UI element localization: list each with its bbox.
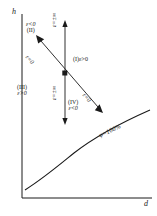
saturation-curve <box>25 110 150 190</box>
quadrant-iv-epsilon: ε<0 <box>68 105 78 111</box>
diagonal-line-arrow-upleft <box>36 35 44 44</box>
vertical-line-arrow-up <box>62 20 67 27</box>
quadrant-ii-roman: (II) <box>26 27 35 33</box>
quadrant-i-label: (I)ε>0 <box>73 56 88 62</box>
vertical-epsilon-label-upper: ε=±∞ <box>51 13 57 27</box>
quadrant-iii-label: (III) ε>0 <box>17 84 27 97</box>
diagram-canvas <box>0 0 157 216</box>
vertical-epsilon-label-lower: ε=±∞ <box>51 86 57 100</box>
quadrant-ii-label: ε<0 (II) <box>26 21 35 34</box>
diagonal-line-arrow-downright <box>95 104 103 113</box>
quadrant-iii-epsilon: ε>0 <box>17 90 27 96</box>
vertical-line-arrow-down <box>62 118 67 125</box>
quadrant-iv-label: (IV) ε<0 <box>68 99 78 112</box>
state-point-marker <box>62 71 67 76</box>
x-axis-label: d <box>144 200 148 208</box>
y-axis-label: h <box>12 8 16 16</box>
h-d-diagram: h d ε<0 (II) (I)ε>0 (III) ε>0 (IV) ε<0 ε… <box>0 0 157 216</box>
